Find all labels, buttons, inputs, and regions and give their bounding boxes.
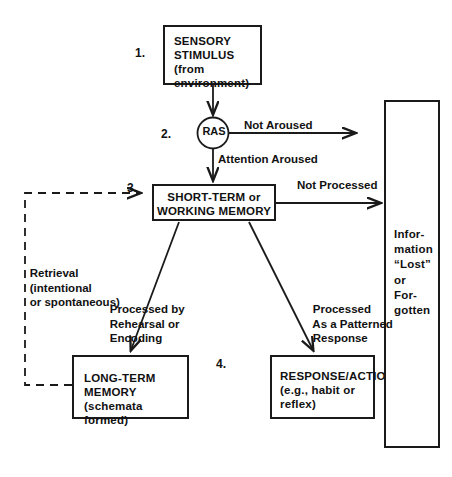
short-term-line-2: WORKING MEMORY	[154, 204, 274, 218]
edge-label-not-processed: Not Processed	[297, 178, 378, 192]
information-lost-line-4: or	[394, 273, 433, 288]
information-lost-line-6: gotten	[394, 303, 433, 318]
node-short-term-memory: SHORT-TERM or WORKING MEMORY	[152, 184, 276, 221]
step-number-2: 2.	[161, 127, 171, 141]
information-lost-line-2: mation	[394, 242, 433, 257]
sensory-line-3: (from environment)	[174, 62, 260, 90]
retrieval-line-1: Retrieval	[30, 267, 79, 279]
ras-node-label: RAS	[197, 125, 231, 139]
long-term-line-3: (schemata formed)	[84, 399, 187, 427]
rehearsal-line-3: Encoding	[110, 332, 162, 344]
edge-label-attention-aroused: Attention Aroused	[218, 152, 318, 166]
node-long-term-memory: LONG-TERM MEMORY (schemata formed)	[72, 355, 189, 419]
node-sensory-stimulus: SENSORY STIMULUS (from environment)	[163, 25, 262, 85]
edge-label-patterned-response: Processed As a Patterned Response	[300, 288, 393, 360]
patterned-line-2: As a Patterned	[312, 318, 393, 330]
diagram-canvas: 1. 2. 3. 4. SENSORY STIMULUS (from envir…	[0, 0, 452, 477]
rehearsal-line-1: Processed by	[110, 303, 185, 315]
retrieval-line-2: (intentional	[30, 282, 92, 294]
information-lost-line-5: For-	[394, 288, 433, 303]
response-line-2: (e.g., habit or	[280, 383, 373, 397]
step-number-3: 3.	[127, 181, 137, 195]
node-response-action: RESPONSE/ACTION (e.g., habit or reflex)	[270, 355, 375, 419]
step-number-1: 1.	[135, 46, 145, 60]
patterned-line-1: Processed	[313, 303, 371, 315]
node-information-lost: Infor- mation “Lost” or For- gotten	[384, 100, 440, 448]
edge-label-not-aroused: Not Aroused	[244, 118, 313, 132]
sensory-line-1: SENSORY	[174, 34, 260, 48]
short-term-line-1: SHORT-TERM or	[154, 190, 274, 204]
edge-label-rehearsal-encoding: Processed by Rehearsal or Encoding	[97, 288, 185, 360]
rehearsal-line-2: Rehearsal or	[110, 318, 180, 330]
patterned-line-3: Response	[313, 332, 368, 344]
response-line-3: reflex)	[280, 397, 373, 411]
response-line-1: RESPONSE/ACTION	[280, 369, 373, 383]
long-term-line-2: MEMORY	[84, 385, 187, 399]
long-term-line-1: LONG-TERM	[84, 371, 187, 385]
step-number-4: 4.	[216, 357, 226, 371]
sensory-line-2: STIMULUS	[174, 48, 260, 62]
information-lost-line-1: Infor-	[394, 227, 433, 242]
information-lost-line-3: “Lost”	[394, 257, 433, 272]
information-lost-text: Infor- mation “Lost” or For- gotten	[394, 227, 433, 318]
